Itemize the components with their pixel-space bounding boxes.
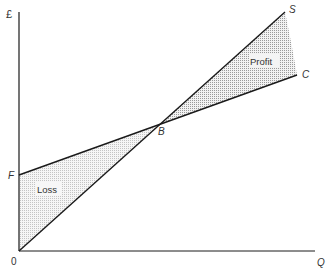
loss-label: Loss [37, 184, 57, 195]
point-b-label: B [158, 126, 165, 137]
point-f-label: F [8, 170, 15, 181]
sales-line [19, 12, 285, 251]
x-axis-label: Q [317, 257, 325, 268]
origin-label: 0 [11, 256, 17, 267]
y-axis-label: £ [6, 8, 12, 20]
point-c-label: C [302, 69, 310, 80]
break-even-diagram: £ Q 0 F B S C Profit Loss [0, 0, 332, 273]
point-s-label: S [289, 4, 296, 15]
profit-region [160, 12, 297, 124]
cost-line [19, 75, 297, 175]
profit-label: Profit [250, 56, 273, 67]
